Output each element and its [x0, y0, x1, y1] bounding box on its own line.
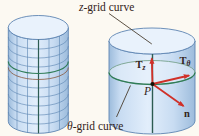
ttheta-main: T	[180, 55, 187, 66]
left-cylinder	[8, 16, 68, 134]
tz-subscript: z	[142, 63, 146, 72]
right-cylinder-top-opening	[109, 28, 195, 54]
figure-grid-curves-cylinder: z-grid curve θ-grid curve Tz Tθ P n	[0, 0, 199, 136]
tz-main: T	[136, 59, 143, 70]
theta-grid-curve-label: θ-grid curve	[67, 120, 123, 133]
point-p-label: P	[143, 85, 151, 97]
diagram-canvas: z-grid curve θ-grid curve Tz Tθ P n	[0, 0, 199, 136]
z-grid-curve-label: z-grid curve	[78, 1, 134, 14]
ttheta-subscript: θ	[187, 59, 191, 68]
tz-tangent-vector-arrow	[152, 59, 153, 85]
z-grid-suffix: -grid curve	[83, 1, 134, 14]
theta-grid-suffix: -grid curve	[73, 120, 124, 133]
normal-vector-label: n	[184, 108, 190, 119]
